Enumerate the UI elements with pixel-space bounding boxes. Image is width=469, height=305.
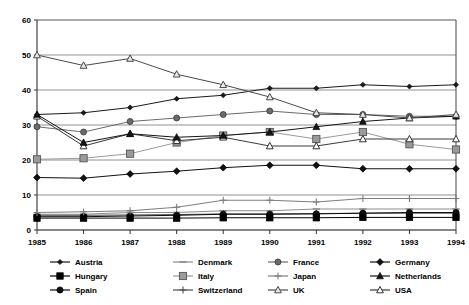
series-marker-japan-1991: [313, 199, 320, 206]
series-marker-germany-1990: [266, 162, 273, 169]
series-marker-germany-1992: [359, 165, 366, 172]
legend-label-switzerland: Switzerland: [198, 286, 243, 295]
legend-label-denmark: Denmark: [198, 258, 233, 267]
legend-swatch-marker-austria: [57, 259, 62, 264]
series-marker-japan-1993: [406, 195, 413, 202]
series-marker-germany-1989: [220, 164, 227, 171]
series-austria: [34, 82, 458, 117]
legend-label-japan: Japan: [293, 272, 316, 281]
series-marker-france-1990: [267, 108, 273, 114]
x-tick-label-1993: 1993: [401, 238, 419, 247]
series-marker-italy-1986: [80, 155, 87, 162]
y-tick-label-60: 60: [22, 16, 31, 25]
y-tick-label-10: 10: [22, 191, 31, 200]
y-tick-label-50: 50: [22, 51, 31, 60]
legend-item-spain[interactable]: Spain: [50, 286, 97, 295]
legend-label-hungary: Hungary: [75, 272, 108, 281]
chart-legend: AustriaDenmarkFranceGermanyHungaryItalyJ…: [50, 258, 442, 295]
series-marker-austria-1986: [81, 110, 86, 115]
series-marker-hungary-1992: [360, 214, 366, 220]
chart-canvas: 0102030405060198519861987198819891990199…: [0, 0, 469, 305]
legend-label-austria: Austria: [75, 258, 103, 267]
legend-item-france[interactable]: France: [268, 258, 320, 267]
series-marker-germany-1991: [313, 162, 320, 169]
x-tick-label-1985: 1985: [28, 238, 46, 247]
series-line-hungary: [37, 217, 456, 218]
x-tick-label-1994: 1994: [447, 238, 465, 247]
legend-label-usa: USA: [395, 286, 412, 295]
series-marker-austria-1989: [221, 93, 226, 98]
series-marker-germany-1985: [34, 174, 41, 181]
legend-item-denmark[interactable]: Denmark: [173, 258, 233, 267]
series-marker-hungary-1986: [80, 215, 86, 221]
legend-swatch-marker-france: [275, 259, 281, 265]
x-tick-label-1987: 1987: [121, 238, 139, 247]
legend-item-uk[interactable]: UK: [268, 286, 305, 295]
series-marker-italy-1987: [127, 150, 134, 157]
y-tick-label-0: 0: [27, 226, 32, 235]
x-tick-label-1989: 1989: [214, 238, 232, 247]
series-marker-hungary-1990: [267, 215, 273, 221]
series-marker-netherlands-1987: [127, 130, 134, 136]
legend-swatch-marker-switzerland: [180, 287, 187, 294]
series-marker-austria-1992: [360, 82, 365, 87]
series-line-austria: [37, 85, 456, 115]
y-tick-label-40: 40: [22, 86, 31, 95]
series-marker-italy-1985: [33, 156, 40, 163]
series-marker-austria-1994: [453, 82, 458, 87]
legend-label-italy: Italy: [198, 272, 215, 281]
series-line-italy: [37, 132, 456, 159]
series-line-usa: [37, 116, 456, 146]
series-marker-hungary-1993: [406, 214, 412, 220]
series-marker-hungary-1988: [173, 215, 179, 221]
legend-label-germany: Germany: [395, 258, 430, 267]
series-marker-hungary-1989: [220, 215, 226, 221]
series-france: [34, 108, 459, 135]
legend-item-italy[interactable]: Italy: [173, 272, 215, 281]
series-marker-japan-1992: [359, 195, 366, 202]
legend-swatch-marker-hungary: [57, 273, 63, 279]
series-marker-germany-1986: [80, 175, 87, 182]
series-marker-japan-1990: [266, 197, 273, 204]
legend-item-austria[interactable]: Austria: [50, 258, 103, 267]
legend-swatch-marker-italy: [179, 272, 186, 279]
series-marker-japan-1994: [453, 195, 460, 202]
series-marker-germany-1987: [127, 171, 134, 178]
series-marker-france-1989: [220, 112, 226, 118]
x-tick-label-1992: 1992: [354, 238, 372, 247]
series-marker-austria-1993: [407, 84, 412, 89]
legend-item-netherlands[interactable]: Netherlands: [370, 272, 442, 281]
legend-item-switzerland[interactable]: Switzerland: [173, 286, 243, 295]
series-line-france: [37, 111, 456, 132]
legend-swatch-marker-spain: [57, 287, 63, 293]
x-tick-label-1990: 1990: [261, 238, 279, 247]
legend-item-germany[interactable]: Germany: [370, 258, 430, 267]
series-marker-austria-1988: [174, 96, 179, 101]
series-marker-france-1985: [34, 124, 40, 130]
line-chart: 0102030405060198519861987198819891990199…: [0, 0, 469, 305]
y-tick-label-30: 30: [22, 121, 31, 130]
series-marker-france-1988: [174, 115, 180, 121]
x-tick-label-1986: 1986: [75, 238, 93, 247]
legend-swatch-marker-japan: [275, 273, 282, 280]
legend-item-japan[interactable]: Japan: [268, 272, 316, 281]
series-line-spain: [37, 213, 456, 217]
legend-label-uk: UK: [293, 286, 305, 295]
series-marker-germany-1993: [406, 165, 413, 172]
series-marker-hungary-1994: [453, 214, 459, 220]
series-marker-germany-1994: [453, 165, 460, 172]
legend-label-netherlands: Netherlands: [395, 272, 442, 281]
legend-item-hungary[interactable]: Hungary: [50, 272, 108, 281]
series-usa: [34, 113, 460, 149]
legend-item-usa[interactable]: USA: [370, 286, 412, 295]
series-marker-germany-1988: [173, 168, 180, 175]
series-marker-france-1987: [127, 119, 133, 125]
series-line-germany: [37, 165, 456, 178]
series-marker-france-1986: [81, 129, 87, 135]
series-marker-hungary-1991: [313, 215, 319, 221]
x-tick-label-1991: 1991: [307, 238, 325, 247]
y-tick-label-20: 20: [22, 156, 31, 165]
series-germany: [34, 162, 460, 182]
series-marker-italy-1994: [452, 146, 459, 153]
legend-swatch-marker-germany: [377, 259, 384, 266]
